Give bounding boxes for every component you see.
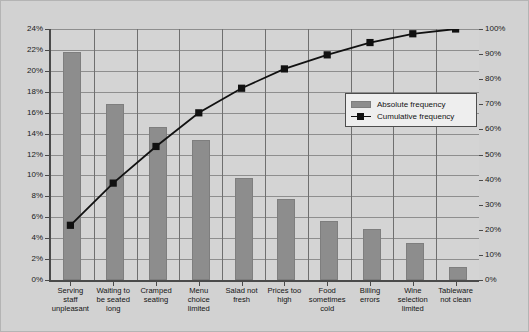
- y-right-tick-label: 50%: [485, 151, 525, 159]
- x-category-label: Salad notfresh: [220, 286, 263, 304]
- y-right-tick-label: 20%: [485, 226, 525, 234]
- y-left-tick-label: 20%: [7, 67, 43, 75]
- line-marker-icon: [351, 112, 371, 121]
- y-right-tick-mark: [479, 155, 483, 156]
- y-left-tick-label: 6%: [7, 213, 43, 221]
- bar: [192, 140, 210, 280]
- y-right-tick-mark: [479, 230, 483, 231]
- bar: [449, 267, 467, 280]
- x-category-label: Menuchoicelimited: [177, 286, 220, 314]
- x-category-label: Billingerrors: [349, 286, 392, 304]
- y-right-tick-mark: [479, 205, 483, 206]
- x-category-label: Tablewarenot clean: [434, 286, 477, 304]
- x-category-label: Wineselectionlimited: [391, 286, 434, 314]
- y-right-tick-mark: [479, 79, 483, 80]
- x-tick-mark: [242, 282, 243, 286]
- gridline-vertical: [179, 29, 180, 280]
- y-right-tick-mark: [479, 104, 483, 105]
- legend-item-cumulative-frequency: Cumulative frequency: [351, 110, 471, 122]
- y-left-tick-label: 2%: [7, 255, 43, 263]
- gridline-vertical: [265, 29, 266, 280]
- bar: [235, 178, 253, 280]
- y-right-tick-mark: [479, 280, 483, 281]
- y-right-tick-label: 10%: [485, 251, 525, 259]
- x-tick-mark: [413, 282, 414, 286]
- x-category-label: Prices toohigh: [263, 286, 306, 304]
- y-left-tick-label: 14%: [7, 130, 43, 138]
- x-category-label: Servingstaffunpleasant: [49, 286, 92, 314]
- x-tick-mark: [284, 282, 285, 286]
- gridline-vertical: [222, 29, 223, 280]
- y-left-tick-label: 16%: [7, 109, 43, 117]
- y-left-tick-label: 18%: [7, 88, 43, 96]
- y-left-tick-label: 4%: [7, 234, 43, 242]
- gridline-vertical: [308, 29, 309, 280]
- y-left-tick-label: 22%: [7, 46, 43, 54]
- y-left-tick-label: 12%: [7, 151, 43, 159]
- y-right-tick-mark: [479, 180, 483, 181]
- legend-label-cumulative-frequency: Cumulative frequency: [377, 112, 454, 121]
- legend-item-absolute-frequency: Absolute frequency: [351, 98, 471, 110]
- y-right-tick-mark: [479, 54, 483, 55]
- y-left-tick-label: 8%: [7, 192, 43, 200]
- x-tick-mark: [370, 282, 371, 286]
- y-right-tick-mark: [479, 255, 483, 256]
- gridline-vertical: [137, 29, 138, 280]
- bar: [106, 104, 124, 280]
- y-right-tick-label: 0%: [485, 276, 525, 284]
- chart-legend: Absolute frequency Cumulative frequency: [345, 93, 477, 127]
- y-right-tick-label: 60%: [485, 125, 525, 133]
- x-category-label: Waiting tobe seatedlong: [92, 286, 135, 314]
- x-tick-mark: [456, 282, 457, 286]
- y-left-tick-label: 0%: [7, 276, 43, 284]
- bar-swatch-icon: [351, 101, 371, 108]
- y-right-tick-label: 90%: [485, 50, 525, 58]
- y-right-tick-mark: [479, 29, 483, 30]
- y-right-tick-mark: [479, 129, 483, 130]
- gridline-vertical: [94, 29, 95, 280]
- y-left-tick-label: 10%: [7, 171, 43, 179]
- bar: [149, 127, 167, 280]
- gridline-vertical: [436, 29, 437, 280]
- y-right-tick-label: 30%: [485, 201, 525, 209]
- y-right-tick-label: 100%: [485, 25, 525, 33]
- x-tick-mark: [156, 282, 157, 286]
- x-tick-mark: [70, 282, 71, 286]
- pareto-chart: 0%2%4%6%8%10%12%14%16%18%20%22%24% 0%10%…: [0, 0, 529, 332]
- x-category-label: Crampedseating: [135, 286, 178, 304]
- gridline-vertical: [393, 29, 394, 280]
- y-right-tick-label: 70%: [485, 100, 525, 108]
- x-tick-mark: [113, 282, 114, 286]
- legend-label-absolute-frequency: Absolute frequency: [377, 100, 446, 109]
- x-tick-mark: [199, 282, 200, 286]
- bar: [63, 52, 81, 280]
- bar: [363, 229, 381, 280]
- y-right-tick-label: 80%: [485, 75, 525, 83]
- x-category-label: Foodsometimescold: [306, 286, 349, 314]
- bar: [320, 221, 338, 280]
- bar: [277, 199, 295, 280]
- y-right-tick-label: 40%: [485, 176, 525, 184]
- plot-area: [49, 29, 479, 282]
- x-tick-mark: [327, 282, 328, 286]
- y-left-tick-label: 24%: [7, 25, 43, 33]
- gridline-vertical: [351, 29, 352, 280]
- bar: [406, 243, 424, 280]
